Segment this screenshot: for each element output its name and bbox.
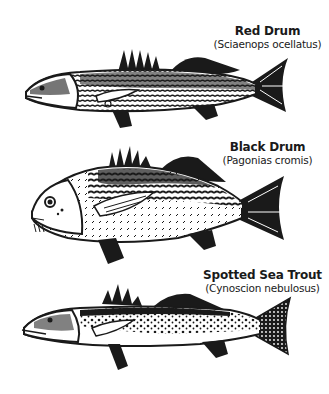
- spotted-sea-trout-common-name: Spotted Sea Trout: [196, 268, 329, 282]
- black-drum-fish-icon: [28, 142, 293, 266]
- red-drum-common-name: Red Drum: [206, 24, 329, 38]
- red-drum-fish-icon: [20, 44, 295, 130]
- spotted-sea-trout-fish-icon: [20, 282, 295, 372]
